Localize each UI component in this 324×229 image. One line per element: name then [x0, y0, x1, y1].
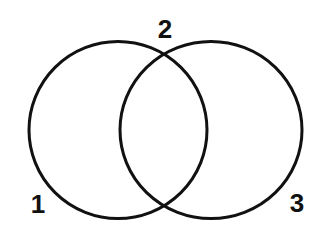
left-circle [29, 42, 207, 219]
venn-diagram-svg: 1 2 3 [0, 0, 324, 229]
right-circle [120, 42, 302, 219]
label-2: 2 [158, 14, 172, 44]
label-3: 3 [290, 188, 304, 218]
label-1: 1 [31, 189, 45, 219]
venn-diagram: 1 2 3 [0, 0, 324, 229]
